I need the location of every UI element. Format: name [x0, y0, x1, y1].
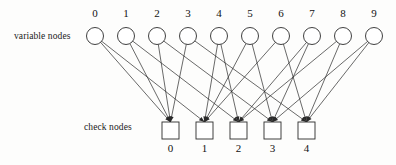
- check-node-label-3: 3: [270, 142, 276, 154]
- variable-node-label-3: 3: [185, 7, 191, 19]
- check-nodes-group: [162, 122, 315, 139]
- edge-v3-c0: [171, 44, 187, 122]
- tanner-graph-canvas: 012340123456789: [0, 0, 396, 165]
- check-node-3: [264, 122, 281, 139]
- variable-node-6: [273, 28, 290, 45]
- variable-node-label-9: 9: [371, 7, 377, 19]
- variable-node-label-1: 1: [123, 7, 129, 19]
- variable-node-label-7: 7: [309, 7, 315, 19]
- check-node-label-4: 4: [304, 142, 310, 154]
- check-node-1: [196, 122, 213, 139]
- edge-v5-c3: [252, 44, 272, 122]
- variable-node-0: [87, 28, 104, 45]
- variable-node-label-6: 6: [278, 7, 284, 19]
- tanner-graph-figure: variable nodes check nodes 0123401234567…: [0, 0, 396, 165]
- edges-group: [101, 41, 369, 122]
- check-node-label-0: 0: [168, 142, 174, 154]
- variable-node-1: [118, 28, 135, 45]
- variable-node-2: [149, 28, 166, 45]
- variable-node-8: [335, 28, 352, 45]
- variable-node-7: [304, 28, 321, 45]
- check-node-label-1: 1: [202, 142, 208, 154]
- check-node-0: [162, 122, 179, 139]
- edge-v8-c2: [239, 41, 337, 122]
- edge-v8-c4: [307, 44, 340, 122]
- variable-node-label-2: 2: [154, 7, 160, 19]
- edge-v7-c2: [239, 42, 307, 122]
- check-node-4: [298, 122, 315, 139]
- edge-v2-c3: [164, 41, 273, 122]
- edge-v9-c3: [273, 41, 368, 122]
- check-node-label-2: 2: [236, 142, 242, 154]
- edge-v9-c4: [307, 43, 369, 122]
- variable-node-5: [242, 28, 259, 45]
- variable-node-label-4: 4: [216, 7, 222, 19]
- variable-node-4: [211, 28, 228, 45]
- check-node-2: [230, 122, 247, 139]
- variable-node-label-8: 8: [340, 7, 346, 19]
- variable-node-label-5: 5: [247, 7, 253, 19]
- edge-v0-c1: [102, 41, 205, 122]
- variable-node-3: [180, 28, 197, 45]
- variable-node-label-0: 0: [92, 7, 98, 19]
- variable-nodes-group: [87, 28, 383, 45]
- variable-node-9: [366, 28, 383, 45]
